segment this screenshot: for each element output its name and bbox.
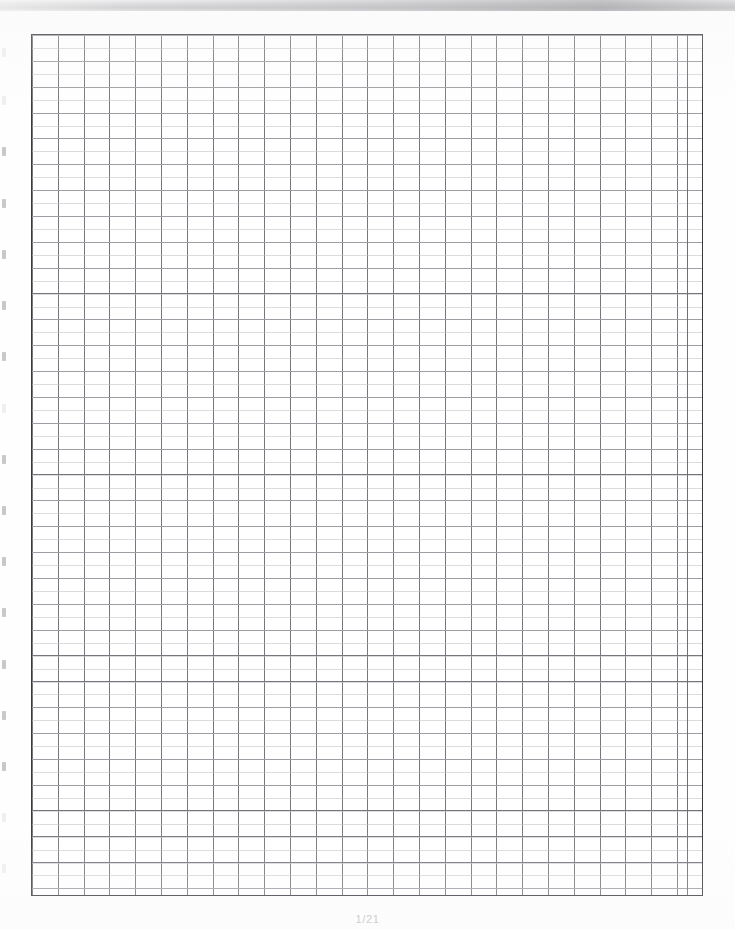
edge-mark	[2, 455, 6, 464]
scanned-page: 1/21	[0, 0, 735, 929]
edge-mark	[2, 147, 6, 156]
grid-ruling-lines	[32, 35, 702, 895]
edge-mark	[2, 660, 6, 669]
edge-mark	[2, 813, 6, 822]
edge-mark	[2, 352, 6, 361]
edge-mark	[2, 48, 6, 57]
grid-right-edge-rule	[687, 35, 688, 895]
edge-mark	[2, 404, 6, 413]
edge-mark	[2, 557, 6, 566]
edge-mark	[2, 199, 6, 208]
edge-mark	[2, 864, 6, 873]
edge-mark	[2, 762, 6, 771]
page-caption: 1/21	[0, 913, 735, 925]
scanner-edge-band	[0, 0, 735, 11]
edge-mark	[2, 301, 6, 310]
edge-mark	[2, 608, 6, 617]
edge-mark	[2, 96, 6, 105]
graph-paper-grid	[31, 34, 703, 896]
edge-mark	[2, 250, 6, 259]
scanner-band-shading	[0, 0, 735, 11]
edge-mark	[2, 506, 6, 515]
edge-mark	[2, 711, 6, 720]
